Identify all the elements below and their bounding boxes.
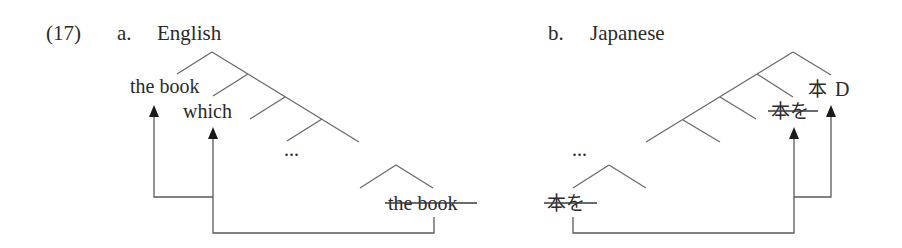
arrow-head-icon: [149, 105, 159, 117]
ellipsis: ...: [572, 138, 587, 160]
relative-pronoun-which: which: [183, 100, 232, 122]
tree-branch: [573, 165, 609, 188]
example-number: (17): [46, 21, 81, 45]
tree-branch: [609, 165, 646, 188]
english-tree: the book which ... the book: [130, 52, 477, 233]
tree-branch: [720, 97, 756, 119]
tree-branch: [396, 165, 433, 188]
syntax-tree-diagram: (17) a. English b. Japanese the book whi…: [0, 0, 902, 248]
movement-arrow-trace-to-which: [213, 138, 434, 233]
tree-branch: [683, 120, 720, 142]
movement-arrow-base-to-intermediate: [573, 138, 794, 233]
tree-branch: [793, 52, 831, 75]
arrow-head-icon: [208, 127, 218, 139]
movement-arrow-intermediate-to-d: [794, 116, 831, 197]
arrow-head-icon: [789, 127, 799, 139]
movement-arrow-which-to-the-book: [154, 116, 213, 197]
tree-spine: [212, 52, 359, 142]
tree-branch: [250, 97, 285, 119]
determiner-d: D: [835, 78, 849, 100]
tree-branch: [177, 52, 212, 74]
tree-branch: [757, 74, 793, 97]
panel-b-marker: b.: [548, 21, 564, 45]
tree-branch: [360, 165, 396, 188]
ellipsis: ...: [284, 138, 299, 160]
tree-branch: [213, 74, 248, 96]
arrow-head-icon: [826, 105, 836, 117]
japanese-tree: 本 D 本を ... 本を: [544, 52, 849, 233]
tree-spine: [646, 52, 793, 142]
panel-a-marker: a.: [117, 21, 132, 45]
panel-a-title: English: [157, 21, 222, 45]
head-noun-hon: 本: [808, 78, 827, 100]
panel-b-title: Japanese: [590, 21, 665, 45]
moved-phrase-the-book: the book: [130, 75, 199, 97]
